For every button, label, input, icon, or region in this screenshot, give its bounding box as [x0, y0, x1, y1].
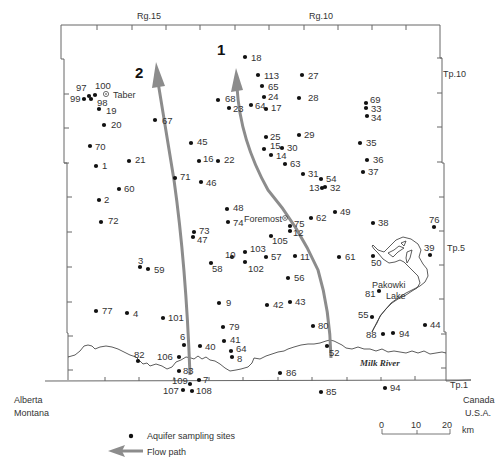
site-dot-icon — [146, 267, 150, 271]
site-label: 21 — [135, 154, 146, 165]
site-dot-icon — [97, 107, 101, 111]
site-dot-icon — [371, 221, 375, 225]
site-label: 59 — [154, 264, 165, 275]
site-dot-icon — [358, 141, 362, 145]
site-dot-icon — [127, 159, 131, 163]
sampling-site: 49 — [333, 206, 351, 217]
range-label-15: Rg.15 — [137, 11, 161, 21]
sampling-site: 88 — [366, 329, 385, 340]
site-label: 27 — [308, 70, 319, 81]
site-label: 28 — [308, 92, 319, 103]
sampling-site: 40 — [198, 341, 216, 352]
site-dot-icon — [264, 107, 268, 111]
site-label: 94 — [390, 382, 401, 393]
sampling-site: 46 — [199, 177, 217, 188]
site-label: 67 — [162, 115, 173, 126]
sampling-site: 1 — [94, 160, 107, 171]
site-label: 105 — [272, 235, 288, 246]
scale-tick-10: 10 — [411, 420, 421, 430]
site-label: 29 — [304, 129, 315, 140]
site-label: 99 — [70, 93, 81, 104]
sampling-sites: 9710099981920676823181136524641727286933… — [70, 52, 441, 397]
site-dot-icon — [216, 159, 220, 163]
scale-bar: 0 10 20 km — [379, 420, 474, 435]
site-label: 50 — [371, 257, 382, 268]
site-dot-icon — [230, 355, 234, 359]
site-label: 101 — [168, 312, 184, 323]
site-dot-icon — [300, 73, 304, 77]
site-label: 19 — [106, 105, 117, 116]
sampling-site: 4 — [125, 308, 138, 319]
site-dot-icon — [286, 276, 290, 280]
site-dot-icon — [222, 339, 226, 343]
site-label: 38 — [378, 217, 389, 228]
site-label: 49 — [340, 206, 351, 217]
label-montana: Montana — [14, 408, 49, 418]
sampling-site: 64 — [249, 100, 266, 111]
sampling-site: 82 — [134, 349, 145, 363]
site-label: 108 — [196, 385, 212, 396]
site-dot-icon — [243, 260, 247, 264]
site-dot-icon — [377, 289, 381, 293]
sampling-site: 47 — [191, 234, 208, 245]
sampling-site: 6 — [180, 331, 186, 347]
site-label: 88 — [366, 329, 377, 340]
site-label: 71 — [180, 171, 191, 182]
site-label: 6 — [180, 331, 185, 342]
site-dot-icon — [243, 55, 247, 59]
scale-tick-0: 0 — [379, 420, 384, 430]
sampling-site: 36 — [365, 154, 384, 165]
sampling-site: 94 — [383, 382, 401, 393]
place-label-lake: Lake — [386, 291, 406, 301]
site-dot-icon — [301, 172, 305, 176]
site-label: 2 — [104, 194, 109, 205]
site-dot-icon — [125, 311, 129, 315]
site-dot-icon — [197, 159, 201, 163]
site-dot-icon — [333, 210, 337, 214]
site-label: 62 — [316, 212, 327, 223]
sampling-site: 23 — [227, 103, 244, 114]
sampling-site: 94 — [391, 328, 410, 339]
site-label: 70 — [95, 141, 106, 152]
sampling-site: 35 — [358, 137, 377, 148]
site-dot-icon — [256, 73, 260, 77]
label-alberta: Alberta — [14, 395, 43, 405]
site-label: 10 — [225, 249, 236, 260]
site-label: 103 — [250, 243, 266, 254]
sampling-site: 60 — [117, 183, 135, 194]
sampling-site: 98 — [89, 97, 108, 108]
sampling-site: 59 — [146, 264, 165, 275]
site-dot-icon — [97, 198, 101, 202]
site-dot-icon — [297, 96, 301, 100]
sampling-site: 57 — [264, 251, 282, 262]
site-label: 113 — [264, 70, 279, 81]
site-dot-icon — [199, 180, 203, 184]
site-label: 45 — [197, 136, 208, 147]
site-label: 23 — [233, 103, 244, 114]
site-dot-icon — [117, 187, 121, 191]
site-label: 86 — [286, 367, 297, 378]
sampling-site: 28 — [297, 92, 319, 103]
site-dot-icon — [197, 378, 201, 382]
site-label: 40 — [205, 341, 216, 352]
sampling-site: 108 — [190, 385, 212, 396]
site-dot-icon — [226, 220, 230, 224]
site-label: 76 — [429, 214, 440, 225]
site-label: 58 — [212, 263, 223, 274]
site-dot-icon — [182, 343, 186, 347]
sampling-site: 72 — [99, 215, 119, 226]
site-label: 9 — [226, 297, 231, 308]
sampling-site: 70 — [88, 141, 106, 152]
site-dot-icon — [94, 309, 98, 313]
sampling-site: 37 — [361, 166, 379, 177]
site-label: 106 — [157, 351, 173, 362]
flow-path-label-2: 2 — [135, 64, 143, 81]
site-dot-icon — [264, 135, 268, 139]
site-label: 102 — [248, 263, 264, 274]
site-label: 97 — [76, 82, 87, 93]
site-dot-icon — [278, 371, 282, 375]
site-label: 77 — [102, 305, 113, 316]
site-dot-icon — [262, 95, 266, 99]
sampling-site: 44 — [423, 319, 441, 330]
sampling-site: 99 — [70, 93, 86, 104]
